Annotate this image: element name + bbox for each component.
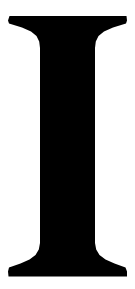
glyph-image: [0, 0, 135, 289]
glyph-canvas: I: [0, 0, 135, 289]
